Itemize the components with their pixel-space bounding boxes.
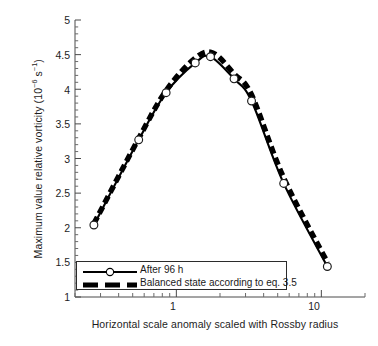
legend-item-balanced-state: Balanced state according to eq. 3.5	[81, 276, 297, 289]
data-point-4	[207, 53, 215, 61]
plot-area	[75, 20, 365, 297]
legend-label-after-96h: After 96 h	[139, 264, 183, 275]
data-point-7	[280, 180, 288, 188]
data-point-5	[230, 75, 238, 83]
y-axis-title-exponent-2: −1	[30, 63, 39, 71]
y-axis-title-exponent-1: −6	[30, 80, 39, 88]
y-axis-title: Maximum value relative vorticity (10−6 s…	[30, 29, 44, 289]
x-tick-label-1: 10	[299, 300, 329, 312]
y-tick-label-2: 4	[44, 85, 70, 95]
line-marker-key-icon	[81, 264, 139, 276]
legend-item-after-96h: After 96 h	[81, 263, 183, 276]
dashed-line-key-icon	[81, 277, 139, 289]
y-tick-label-4: 3	[44, 154, 70, 164]
figure-chart: Maximum value relative vorticity (10−6 s…	[0, 0, 378, 346]
x-axis-title: Horizontal scale anomaly scaled with Ros…	[60, 318, 370, 330]
y-axis-title-tail: )	[32, 59, 44, 63]
y-tick-label-5: 2.5	[44, 188, 70, 198]
y-tick-label-1: 4.5	[44, 50, 70, 60]
y-axis-ticks	[75, 20, 81, 297]
y-axis-title-text: Maximum value relative vorticity (10	[32, 88, 44, 258]
x-tick-label-0: 1	[158, 300, 188, 312]
legend-label-balanced-state: Balanced state according to eq. 3.5	[139, 277, 297, 288]
y-tick-label-8: 1	[44, 292, 70, 302]
data-point-6	[248, 97, 256, 105]
y-axis-title-mid: s	[32, 71, 44, 79]
data-point-8	[323, 263, 331, 271]
data-point-2	[162, 89, 170, 97]
data-point-3	[191, 59, 199, 67]
y-tick-label-7: 1.5	[44, 257, 70, 267]
y-tick-label-3: 3.5	[44, 119, 70, 129]
y-tick-label-6: 2	[44, 223, 70, 233]
plot-canvas	[75, 20, 365, 297]
data-point-0	[90, 221, 98, 229]
x-axis-ticks	[75, 290, 365, 297]
y-tick-label-0: 5	[44, 15, 70, 25]
data-point-1	[135, 136, 143, 144]
legend-box: After 96 h Balanced state according to e…	[76, 261, 287, 290]
